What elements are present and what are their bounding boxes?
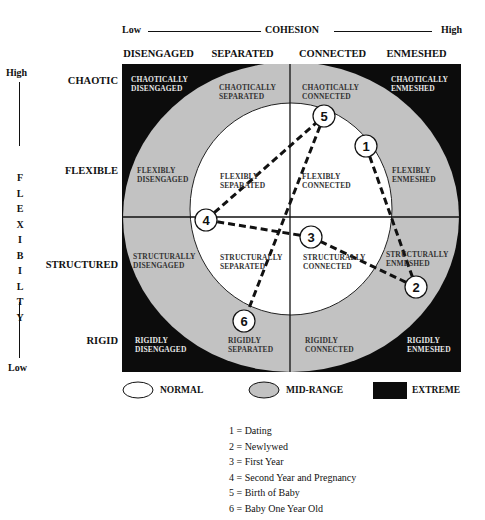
svg-text:6: 6 [240,314,247,329]
key-item-5: 5 = Birth of Baby [229,485,356,501]
cell-flexibly-separated: FLEXIBLYSEPARATED [220,172,265,190]
key-item-2: 2 = Newlywed [229,439,356,455]
cell-structurally-connected: STRUCTURALLYCONNECTED [303,253,366,271]
stage-node-1: 1 [355,135,377,157]
cell-flexibly-enmeshed: FLEXIBLYENMESHED [392,166,436,184]
key-item-6: 6 = Baby One Year Old [229,501,356,517]
svg-text:4: 4 [202,213,210,228]
stage-node-5: 5 [313,105,335,127]
key-item-1: 1 = Dating [229,423,356,439]
stage-node-4: 4 [195,209,217,231]
normal-region [190,103,392,315]
key-item-4: 4 = Second Year and Pregnancy [229,470,356,486]
legend-normal-swatch [122,380,154,400]
cell-structurally-disengaged: STRUCTURALLYDISENGAGED [133,252,196,270]
svg-text:2: 2 [412,280,419,295]
stage-node-2: 2 [405,276,427,298]
cell-flexibly-disengaged: FLEXIBLYDISENGAGED [137,166,188,184]
cell-rigidly-separated: RIGIDLYSEPARATED [228,336,273,354]
cell-chaotically-connected: CHAOTICALLYCONNECTED [302,83,359,101]
cell-flexibly-connected: FLEXIBLYCONNECTED [302,172,351,190]
cell-rigidly-connected: RIGIDLYCONNECTED [305,336,354,354]
stage-node-6: 6 [233,310,255,332]
legend-extreme-swatch [373,382,407,399]
legend-normal-label: NORMAL [160,385,203,395]
cell-structurally-separated: STRUCTURALLYSEPARATED [220,253,283,271]
cell-chaotically-disengaged: CHAOTICALLYDISENGAGED [131,75,188,93]
legend-mid-range-swatch [248,380,280,400]
svg-text:1: 1 [362,139,369,154]
legend-mid-range-label: MID-RANGE [286,385,343,395]
stage-key: 1 = Dating 2 = Newlywed 3 = First Year 4… [229,423,356,516]
cell-rigidly-disengaged: RIGIDLYDISENGAGED [135,336,186,354]
cell-chaotically-enmeshed: CHAOTICALLYENMESHED [391,75,448,93]
cell-structurally-enmeshed: STRUCTURALLYENMESHED [386,250,449,268]
legend-extreme-label: EXTREME [412,385,460,395]
svg-text:3: 3 [307,230,314,245]
stage-node-3: 3 [300,226,322,248]
svg-text:5: 5 [320,109,327,124]
cell-rigidly-enmeshed: RIGIDLYENMESHED [407,336,451,354]
cell-chaotically-separated: CHAOTICALLYSEPARATED [219,83,276,101]
key-item-3: 3 = First Year [229,454,356,470]
